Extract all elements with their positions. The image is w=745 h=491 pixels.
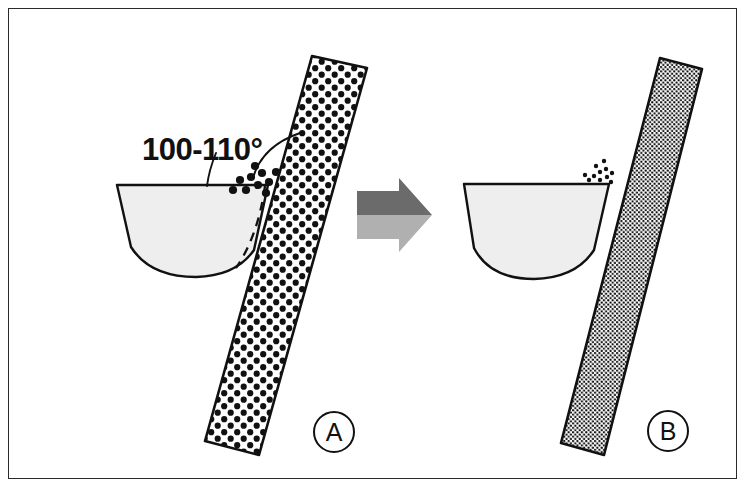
panel-a-letter: A [326, 418, 343, 446]
diagram-canvas: 100-110° A [0, 0, 745, 491]
panel-a: 100-110° A [117, 56, 367, 455]
meniscus-bowl-shape [117, 185, 268, 277]
panel-b-loose-dots [583, 159, 614, 184]
panel-b: B [464, 58, 702, 455]
angle-label: 100-110° [142, 132, 263, 167]
transition-arrow [350, 170, 445, 263]
meniscus-bowl-shape [464, 184, 609, 279]
panel-a-bowl [117, 185, 268, 277]
arrow-top-half [350, 170, 445, 215]
figure-root: 100-110° A [0, 0, 745, 491]
arrow-bottom-half [350, 215, 445, 263]
panel-b-bowl [464, 184, 609, 279]
panel-a-label: A [314, 412, 354, 452]
panel-b-letter: B [660, 417, 677, 445]
panel-b-label: B [648, 411, 688, 451]
